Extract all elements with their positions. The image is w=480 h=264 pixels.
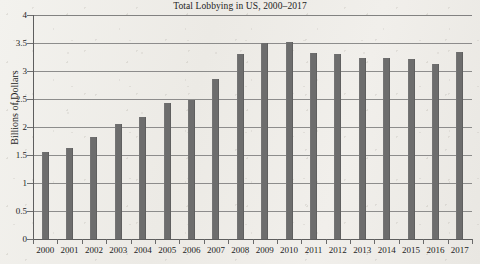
x-tick-label: 2001 bbox=[61, 245, 79, 255]
bar bbox=[188, 100, 195, 239]
y-tick-mark bbox=[27, 211, 33, 212]
x-tick-label: 2014 bbox=[378, 245, 396, 255]
bar bbox=[334, 54, 341, 239]
x-tick-mark bbox=[179, 239, 180, 244]
bar bbox=[237, 54, 244, 239]
y-tick-mark bbox=[27, 71, 33, 72]
x-tick-label: 2005 bbox=[158, 245, 176, 255]
x-tick-mark bbox=[277, 239, 278, 244]
bar bbox=[286, 42, 293, 239]
x-tick-label: 2004 bbox=[134, 245, 152, 255]
x-tick-mark bbox=[448, 239, 449, 244]
bar bbox=[310, 53, 317, 239]
bar bbox=[66, 148, 73, 239]
y-tick-mark bbox=[27, 155, 33, 156]
bar bbox=[432, 64, 439, 239]
bars-layer bbox=[33, 15, 472, 239]
bar bbox=[164, 103, 171, 239]
y-tick-label: 0.5 bbox=[16, 206, 27, 216]
y-tick-label: 1.5 bbox=[16, 150, 27, 160]
chart-title: Total Lobbying in US, 2000–2017 bbox=[0, 1, 480, 11]
bar bbox=[115, 124, 122, 239]
x-tick-label: 2010 bbox=[280, 245, 298, 255]
x-tick-mark bbox=[350, 239, 351, 244]
x-tick-mark bbox=[155, 239, 156, 244]
y-tick-label: 3.5 bbox=[16, 38, 27, 48]
bar bbox=[359, 58, 366, 239]
x-tick-label: 2012 bbox=[329, 245, 347, 255]
x-tick-label: 2015 bbox=[402, 245, 420, 255]
x-axis-tick-labels: 2000200120022003200420052006200720082009… bbox=[33, 245, 472, 261]
plot-area bbox=[33, 15, 472, 239]
x-tick-label: 2016 bbox=[426, 245, 444, 255]
y-tick-mark bbox=[27, 127, 33, 128]
x-tick-label: 2011 bbox=[305, 245, 323, 255]
x-tick-label: 2009 bbox=[256, 245, 274, 255]
x-tick-mark bbox=[472, 239, 473, 244]
y-tick-label: 2.5 bbox=[16, 94, 27, 104]
bar bbox=[212, 79, 219, 239]
y-tick-mark bbox=[27, 43, 33, 44]
x-tick-label: 2007 bbox=[207, 245, 225, 255]
x-tick-mark bbox=[204, 239, 205, 244]
y-axis-ticks: 00.511.522.533.54 bbox=[0, 0, 33, 264]
y-tick-mark bbox=[27, 99, 33, 100]
x-tick-label: 2006 bbox=[183, 245, 201, 255]
y-tick-mark bbox=[27, 183, 33, 184]
bar bbox=[42, 152, 49, 239]
y-axis-line bbox=[33, 15, 34, 240]
bar bbox=[261, 43, 268, 239]
x-tick-mark bbox=[106, 239, 107, 244]
bar bbox=[456, 52, 463, 239]
x-tick-label: 2013 bbox=[353, 245, 371, 255]
x-tick-mark bbox=[326, 239, 327, 244]
x-tick-mark bbox=[82, 239, 83, 244]
x-tick-mark bbox=[253, 239, 254, 244]
x-tick-mark bbox=[228, 239, 229, 244]
bar-chart: Total Lobbying in US, 2000–2017 Billions… bbox=[0, 0, 480, 264]
x-tick-mark bbox=[374, 239, 375, 244]
x-tick-label: 2008 bbox=[231, 245, 249, 255]
y-tick-mark bbox=[27, 15, 33, 16]
x-tick-mark bbox=[301, 239, 302, 244]
x-tick-label: 2003 bbox=[109, 245, 127, 255]
x-tick-mark bbox=[33, 239, 34, 244]
bar bbox=[408, 59, 415, 239]
x-tick-label: 2017 bbox=[451, 245, 469, 255]
x-tick-label: 2000 bbox=[36, 245, 54, 255]
x-tick-mark bbox=[399, 239, 400, 244]
x-tick-label: 2002 bbox=[85, 245, 103, 255]
x-tick-mark bbox=[57, 239, 58, 244]
x-tick-mark bbox=[423, 239, 424, 244]
bar bbox=[383, 58, 390, 239]
x-tick-mark bbox=[131, 239, 132, 244]
bar bbox=[139, 117, 146, 239]
bar bbox=[90, 137, 97, 239]
